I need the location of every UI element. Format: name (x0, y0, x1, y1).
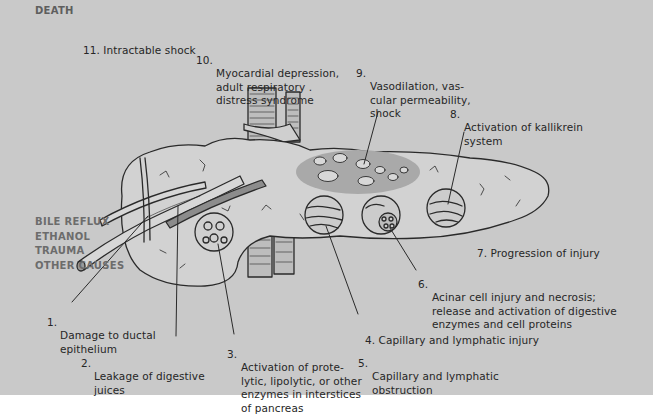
step-number: 2. (81, 357, 91, 371)
step-5-label: 5.Capillary and lymphatic obstruction (358, 343, 499, 411)
cause-bile-reflux: BILE REFLUX (35, 215, 124, 230)
step-number: 1. (47, 316, 57, 330)
inset-progression-icon (427, 189, 465, 227)
cause-other: OTHER CAUSES (35, 259, 124, 274)
step-number: 9. (356, 67, 366, 81)
inset-acinar-icon (195, 213, 233, 251)
step-number: 10. (196, 54, 213, 68)
step-number: 8. (450, 108, 460, 122)
step-text: Progression of injury (491, 247, 600, 259)
step-number: 3. (227, 348, 237, 362)
step-text: Intractable shock (103, 44, 195, 56)
step-text: Myocardial depression, adult respiratory… (216, 67, 339, 108)
inset-necrosis-icon (362, 196, 400, 234)
step-text: Capillary and lymphatic obstruction (372, 370, 499, 397)
step-8-label: 8.Activation of kallikrein system (450, 94, 583, 162)
step-10-label: 10.Myocardial depression, adult respirat… (196, 40, 339, 121)
step-2-label: 2.Leakage of digestive juices (81, 343, 205, 411)
cause-trauma: TRAUMA (35, 244, 124, 259)
cause-ethanol: ETHANOL (35, 230, 124, 245)
inset-capillary-icon (305, 196, 343, 234)
step-11-label: 11. Intractable shock (76, 30, 196, 57)
step-number: 6. (418, 278, 428, 292)
step-number: 7. (477, 247, 487, 259)
step-text: Leakage of digestive juices (94, 370, 205, 397)
causes-list: BILE REFLUX ETHANOL TRAUMA OTHER CAUSES (35, 215, 124, 273)
step-7-label: 7. Progression of injury (470, 233, 600, 260)
step-number: 5. (358, 357, 368, 371)
step-text: Activation of prote- lytic, lipolytic, o… (241, 361, 362, 415)
step-text: Activation of kallikrein system (464, 121, 583, 148)
step-number: 11. (83, 44, 100, 56)
death-heading: DEATH (35, 5, 74, 16)
step-3-label: 3.Activation of prote- lytic, lipolytic,… (227, 334, 362, 418)
